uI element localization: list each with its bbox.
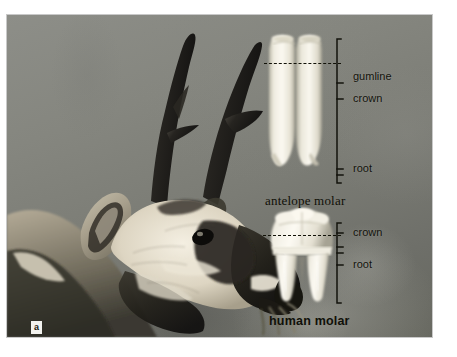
panel-letter-badge: a xyxy=(31,321,42,334)
photograph: gumline crown root antelope molar crown … xyxy=(7,15,432,337)
callout-antelope-crown: crown xyxy=(353,93,382,104)
antelope-molar-name: antelope molar xyxy=(265,194,345,207)
callout-human-crown: crown xyxy=(353,227,382,238)
human-gumline-dash xyxy=(263,235,341,236)
callout-antelope-gumline: gumline xyxy=(353,71,392,82)
human-molar-name: human molar xyxy=(269,315,350,328)
callout-antelope-root: root xyxy=(353,163,372,174)
human-molar-illustration xyxy=(7,15,432,337)
figure-panel: gumline crown root antelope molar crown … xyxy=(0,0,457,357)
callout-human-root: root xyxy=(353,259,372,270)
